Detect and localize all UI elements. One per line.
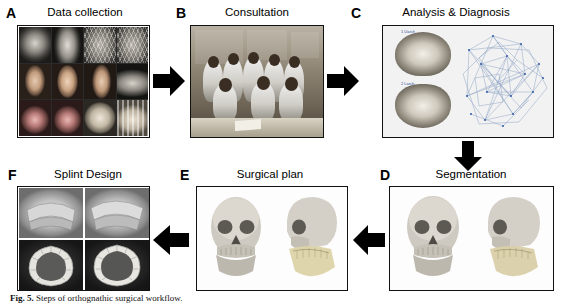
arrow-e-to-f <box>152 224 190 256</box>
tile-splint-occlusal-view-1 <box>19 240 83 290</box>
panel-letter-c: C <box>351 6 361 20</box>
tile-cbct-axial-upper-arch <box>395 32 451 76</box>
tile-skull-frontal-view <box>394 191 472 287</box>
panel-title-surgical-plan: Surgical plan <box>196 168 344 181</box>
figure-caption: Fig. 5. Steps of orthognathic surgical w… <box>10 293 182 303</box>
panel-title-splint-design: Splint Design <box>26 168 150 181</box>
tile-intraoral-lateral-photo <box>52 100 84 136</box>
tile-panoramic-radiograph <box>117 64 149 100</box>
panel-e-frame <box>196 186 348 291</box>
panel-letter-a: A <box>6 6 16 20</box>
panel-title-segmentation: Segmentation <box>396 168 546 181</box>
arrow-b-to-c <box>326 64 360 98</box>
arrow-a-to-b <box>152 64 186 98</box>
panel-c-content: 1 Uarch 2 Larch <box>383 26 553 137</box>
tile-clinical-team-meeting-photo <box>191 26 323 137</box>
tile-smiling-face-photo <box>52 64 84 100</box>
tile-intraoral-frontal-photo <box>19 100 51 136</box>
panel-title-consultation: Consultation <box>192 6 322 19</box>
tile-lateral-cephalogram <box>19 27 51 63</box>
panel-letter-e: E <box>180 168 189 182</box>
panel-title-analysis-diagnosis: Analysis & Diagnosis <box>366 6 546 19</box>
panel-letter-d: D <box>380 168 390 182</box>
panel-a-image-grid <box>19 27 148 136</box>
figure-workflow-diagram: A Data collection B Consultation <box>0 0 564 304</box>
panel-title-data-collection: Data collection <box>22 6 148 19</box>
tile-dental-cast-upper <box>84 100 116 136</box>
tile-splint-design-render-1 <box>19 188 83 238</box>
tile-skull-lateral-view-planned <box>273 191 347 287</box>
panel-d-content <box>390 187 553 290</box>
panel-f-frame <box>17 186 150 291</box>
tile-3d-face-mesh-lateral <box>117 27 149 63</box>
tile-splint-design-render-2 <box>85 188 149 238</box>
tile-profile-face-photo <box>84 64 116 100</box>
panel-letter-f: F <box>8 168 17 182</box>
tile-dental-cast-lower <box>117 100 149 136</box>
tile-splint-occlusal-view-2 <box>85 240 149 290</box>
panel-a-frame <box>17 25 150 138</box>
tile-skull-frontal-view-planned <box>199 191 273 287</box>
tile-3d-face-mesh <box>84 27 116 63</box>
panel-e-content <box>197 187 347 290</box>
panel-c-frame: 1 Uarch 2 Larch <box>382 25 554 138</box>
panel-b-frame <box>190 25 324 138</box>
panel-d-frame <box>389 186 554 291</box>
figure-caption-text: Steps of orthognathic surgical workflow. <box>36 293 182 303</box>
tile-cephalometric-landmark-mesh <box>459 30 553 134</box>
arrow-d-to-e <box>352 224 386 256</box>
tile-frontal-cephalogram <box>52 27 84 63</box>
tile-cbct-axial-lower-arch <box>395 84 451 128</box>
tile-frontal-face-photo <box>19 64 51 100</box>
panel-letter-b: B <box>176 6 186 20</box>
cbct-label-lower-arch: 2 Larch <box>401 81 414 86</box>
figure-caption-label: Fig. 5. <box>10 293 34 303</box>
cbct-label-upper-arch: 1 Uarch <box>401 29 415 34</box>
tile-skull-lateral-view-segmented <box>472 191 552 287</box>
